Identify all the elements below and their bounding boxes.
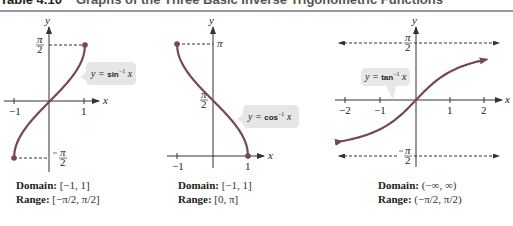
- svg-text:y = cos−1 x: y = cos−1 x: [247, 111, 292, 122]
- svg-text:2: 2: [60, 156, 66, 168]
- arctan-domain-range: Domain: (−∞, ∞) Range: (−π/2, π/2): [378, 178, 462, 206]
- svg-text:y = sin−1 x: y = sin−1 x: [90, 68, 133, 79]
- neg-pi-over-2-label: π 2: [399, 144, 413, 167]
- svg-text:y = tan−1 x: y = tan−1 x: [364, 71, 407, 82]
- y-axis-label: y: [411, 14, 417, 26]
- domain-value: [−1, 1]: [60, 179, 90, 191]
- arccos-graph: x y −1 1 π π 2 y = cos−1 x: [167, 14, 299, 172]
- domain-value: (−∞, ∞): [422, 179, 457, 191]
- endpoint: [245, 153, 251, 159]
- x-tick-label: 1: [245, 160, 251, 172]
- pi-over-2-label: π 2: [36, 33, 44, 55]
- x-tick-label: 1: [447, 104, 453, 116]
- x-tick-label: 1: [81, 105, 87, 117]
- y-axis-label: y: [208, 14, 214, 26]
- svg-text:2: 2: [405, 41, 411, 53]
- endpoint: [174, 41, 180, 47]
- domain-value: [−1, 1]: [222, 179, 252, 191]
- domain-label: Domain:: [16, 179, 57, 191]
- domain-label: Domain:: [178, 179, 219, 191]
- domain-label: Domain:: [378, 179, 419, 191]
- range-label: Range:: [378, 193, 412, 205]
- endpoint: [11, 155, 17, 161]
- arctan-graph: x y −2 −1 1 2 π 2 π 2 y = tan−1 x: [335, 14, 510, 167]
- function-callout: y = sin−1 x: [80, 62, 136, 85]
- range-label: Range:: [16, 193, 50, 205]
- y-axis-label: y: [44, 14, 50, 26]
- x-tick-label: −2: [339, 104, 351, 116]
- x-tick-label: −1: [374, 104, 386, 116]
- endpoint: [82, 42, 88, 48]
- x-tick-label: −1: [172, 160, 184, 172]
- svg-text:2: 2: [201, 98, 207, 110]
- range-value: [−π/2, π/2]: [52, 193, 99, 205]
- x-tick-label: −1: [9, 105, 21, 117]
- pi-label: π: [217, 37, 223, 49]
- x-tick-label: 2: [481, 104, 487, 116]
- arcsin-domain-range: Domain: [−1, 1] Range: [−π/2, π/2]: [16, 178, 100, 206]
- range-label: Range:: [178, 193, 212, 205]
- svg-text:2: 2: [405, 154, 411, 166]
- arccos-domain-range: Domain: [−1, 1] Range: [0, π]: [178, 178, 252, 206]
- arcsin-graph: x y −1 1 π 2 π 2 y = sin−1 x: [4, 14, 136, 172]
- range-value: [0, π]: [214, 193, 238, 205]
- pi-over-2-label: π 2: [403, 31, 413, 54]
- function-callout: y = tan−1 x: [361, 68, 410, 100]
- x-axis-label: x: [102, 94, 108, 106]
- x-axis-label: x: [504, 93, 510, 105]
- svg-text:2: 2: [37, 43, 43, 55]
- neg-pi-over-2-label: π 2: [53, 146, 67, 168]
- x-axis-label: x: [267, 149, 273, 161]
- function-callout: y = cos−1 x: [237, 105, 299, 128]
- range-value: (−π/2, π/2): [414, 193, 461, 205]
